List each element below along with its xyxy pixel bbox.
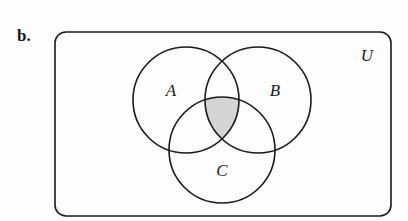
set-b-label: B <box>270 81 281 100</box>
venn-diagram-figure: b. A B C U <box>0 0 408 221</box>
universe-label: U <box>361 46 375 65</box>
part-label: b. <box>17 27 31 44</box>
venn-diagram: A B C U <box>0 0 408 221</box>
set-c-label: C <box>216 161 228 180</box>
set-a-label: A <box>165 81 177 100</box>
